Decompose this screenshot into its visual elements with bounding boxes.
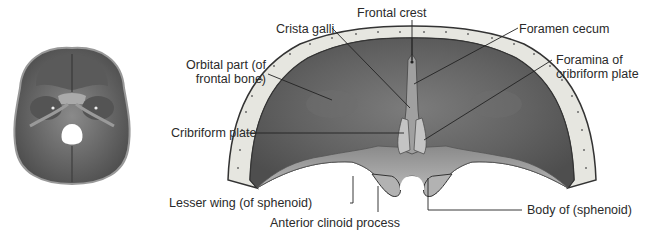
label-foramina-cribriform: Foramina of cribriform plate: [556, 53, 639, 81]
anatomy-figure: Frontal crest Crista galli Foramen cecum…: [0, 0, 647, 246]
skull-base-thumbnail: [14, 48, 129, 184]
label-lesser-wing: Lesser wing (of sphenoid): [169, 196, 312, 210]
label-frontal-crest: Frontal crest: [357, 6, 426, 20]
label-body-sphenoid: Body of (sphenoid): [527, 203, 632, 217]
label-orbital-part: Orbital part (of frontal bone): [174, 58, 266, 86]
label-cribriform-plate: Cribriform plate: [171, 126, 256, 140]
label-crista-galli: Crista galli: [276, 22, 334, 36]
label-anterior-clinoid: Anterior clinoid process: [270, 216, 400, 230]
label-foramen-cecum: Foramen cecum: [519, 22, 609, 36]
